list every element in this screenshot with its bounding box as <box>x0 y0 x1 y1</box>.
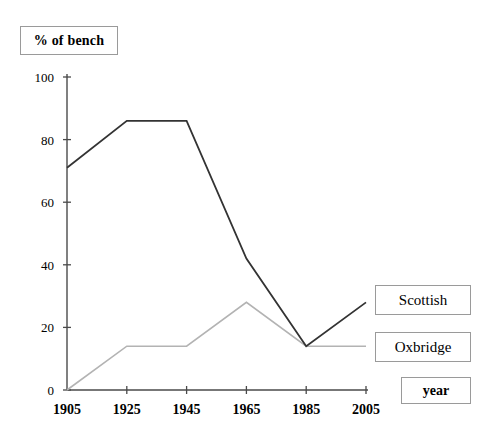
x-tick-label-group: 190519251945196519852005 <box>53 402 380 417</box>
y-tick-label: 80 <box>41 133 54 148</box>
y-tick-label-group: 020406080100 <box>35 70 55 398</box>
x-axis-title-label: year <box>423 383 449 399</box>
x-tick-label: 1985 <box>292 402 320 417</box>
x-tick-label: 1925 <box>113 402 141 417</box>
series-line-oxbridge <box>67 302 366 390</box>
legend-label-oxbridge: Oxbridge <box>395 339 452 356</box>
legend-item-oxbridge[interactable]: Oxbridge <box>375 332 471 362</box>
x-axis-title-box: year <box>401 377 471 404</box>
line-chart-plot: 020406080100 190519251945196519852005 <box>0 0 493 437</box>
legend-label-scottish: Scottish <box>399 292 447 309</box>
y-tick-label: 60 <box>41 195 54 210</box>
chart-page: % of bench 020406080100 1905192519451965… <box>0 0 493 437</box>
y-tick-label: 20 <box>41 320 54 335</box>
x-tick-label: 1965 <box>232 402 260 417</box>
x-tick-label: 1945 <box>173 402 201 417</box>
y-tick-label: 100 <box>35 70 55 85</box>
legend-item-scottish[interactable]: Scottish <box>375 285 471 315</box>
x-tick-label: 2005 <box>352 402 380 417</box>
x-tick-label: 1905 <box>53 402 81 417</box>
y-tick-label: 40 <box>41 258 54 273</box>
series-line-scottish <box>67 121 366 346</box>
y-tick-label: 0 <box>48 383 55 398</box>
